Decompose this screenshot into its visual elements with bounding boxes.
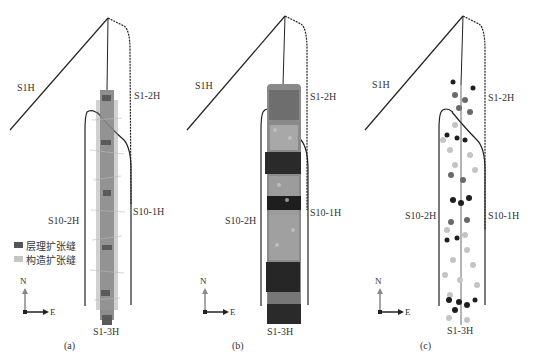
panel-label-b: (b) xyxy=(232,340,244,351)
well-label-s1h: S1H xyxy=(195,80,213,91)
fracture-cloud-a xyxy=(90,90,125,325)
well-trajectories-c xyxy=(355,0,533,361)
well-label-s1h: S1H xyxy=(17,82,35,93)
well-label-s10-1h: S10-1H xyxy=(133,206,164,217)
well-label-s1-2h: S1-2H xyxy=(134,90,160,101)
well-trajectories-b xyxy=(175,0,353,361)
panel-label-a: (a) xyxy=(64,340,75,351)
legend: 层理扩张缝 构造扩张缝 xyxy=(14,238,76,266)
well-trajectories-a xyxy=(0,0,178,361)
fracture-cloud-b xyxy=(265,84,301,324)
compass-a xyxy=(22,288,49,315)
legend-swatch-structural xyxy=(14,256,23,262)
panel-b: S1H S1-2H S10-2H S10-1H S1-3H N E (b) xyxy=(175,0,353,361)
compass-east-label: E xyxy=(405,307,411,317)
well-label-s10-2h: S10-2H xyxy=(48,215,79,226)
fracture-points-c xyxy=(440,80,480,324)
legend-label-structural: 构造扩张缝 xyxy=(26,252,76,267)
panel-label-c: (c) xyxy=(420,340,431,351)
well-label-s1h: S1H xyxy=(372,79,390,90)
legend-item-structural: 构造扩张缝 xyxy=(14,252,76,266)
well-label-s1-2h: S1-2H xyxy=(310,91,336,102)
compass-c xyxy=(377,288,404,315)
well-label-s1-3h: S1-3H xyxy=(447,325,473,336)
compass-north-label: N xyxy=(375,276,382,286)
well-label-s10-1h: S10-1H xyxy=(488,210,519,221)
well-label-s10-2h: S10-2H xyxy=(405,210,436,221)
compass-b xyxy=(202,288,229,315)
compass-north-label: N xyxy=(200,276,207,286)
well-label-s10-2h: S10-2H xyxy=(225,215,256,226)
legend-item-bedding: 层理扩张缝 xyxy=(14,238,76,252)
legend-label-bedding: 层理扩张缝 xyxy=(26,238,76,253)
well-label-s10-1h: S10-1H xyxy=(310,207,341,218)
compass-east-label: E xyxy=(50,307,56,317)
well-label-s1-3h: S1-3H xyxy=(93,326,119,337)
well-label-s1-3h: S1-3H xyxy=(267,326,293,337)
compass-north-label: N xyxy=(20,276,27,286)
legend-swatch-bedding xyxy=(14,242,23,248)
well-label-s1-2h: S1-2H xyxy=(488,92,514,103)
panel-c: S1H S1-2H S10-2H S10-1H S1-3H N E (c) xyxy=(355,0,533,361)
panel-a: S1H S1-2H S10-2H S10-1H S1-3H N E (a) 层理… xyxy=(0,0,178,361)
compass-east-label: E xyxy=(230,307,236,317)
